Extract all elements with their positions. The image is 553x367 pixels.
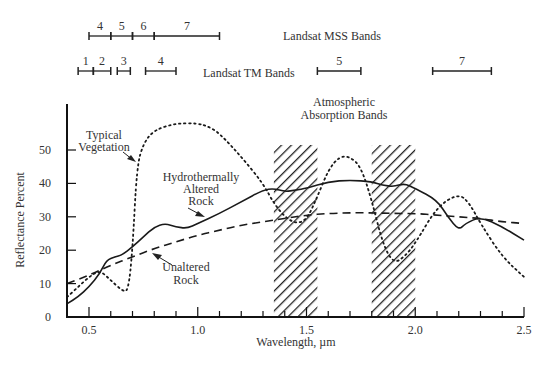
reflectance-chart: 4567123457 Landsat MSS Bands Landsat TM … [0,0,553,367]
band-label-tm-7: 7 [459,54,465,68]
band-label-tm-4: 4 [158,54,164,68]
x-tick-label: 0.5 [82,323,97,337]
band-label-tm-1: 1 [83,54,89,68]
tm-bands-label: Landsat TM Bands [203,66,295,80]
unaltered-label-line1: Unaltered [162,260,209,274]
x-tick-label: 1.0 [190,323,205,337]
y-tick-label: 50 [39,143,51,157]
altered-label-line3: Rock [188,194,213,208]
mss-bands-label: Landsat MSS Bands [283,29,381,43]
y-tick-label: 20 [39,243,51,257]
band-label-mss-6: 6 [140,19,146,33]
unaltered-label-line2: Rock [173,273,198,287]
x-tick-label: 2.0 [408,323,423,337]
y-tick-label: 30 [39,210,51,224]
band-label-tm-3: 3 [121,54,127,68]
x-axis-label: Wavelength, µm [256,335,336,349]
band-label-mss-4: 4 [97,19,103,33]
band-label-tm-2: 2 [99,54,105,68]
band-label-tm-5: 5 [336,54,342,68]
y-tick-label: 0 [45,310,51,324]
band-label-mss-7: 7 [184,19,190,33]
absorption-band-2 [372,145,416,317]
altered-arrowhead-icon [195,211,205,217]
y-axis-label: Reflectance Percent [13,172,27,268]
absorption-band-1 [274,145,318,317]
y-tick-label: 10 [39,277,51,291]
absorption-bands [274,145,415,317]
unaltered-arrowhead-icon [152,253,162,260]
absorption-label-line2: Absorption Bands [301,108,388,122]
band-label-mss-5: 5 [119,19,125,33]
y-tick-label: 40 [39,176,51,190]
absorption-label-line1: Atmospheric [313,95,375,109]
vegetation-label-line2: Vegetation [78,140,129,154]
x-tick-label: 2.5 [517,323,532,337]
